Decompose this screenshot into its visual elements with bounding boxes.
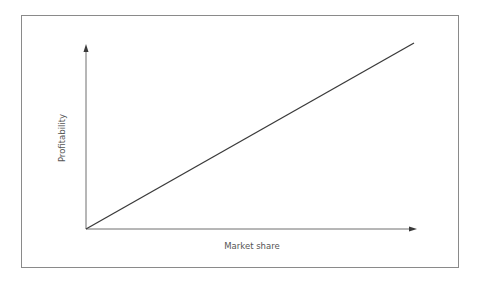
profitability-line — [86, 43, 414, 229]
x-axis-label: Market share — [202, 241, 302, 251]
y-axis-arrow-icon — [84, 44, 89, 52]
x-axis-arrow-icon — [409, 227, 417, 232]
y-axis-label: Profitability — [57, 114, 67, 162]
